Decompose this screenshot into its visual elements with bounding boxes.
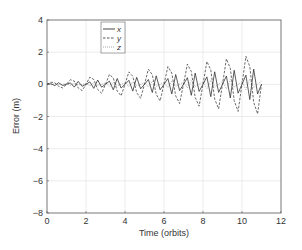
data-series (47, 56, 262, 114)
x-tick-label: 2 (83, 216, 88, 226)
y-tick-label: 4 (38, 15, 43, 25)
legend-label-z: z (116, 43, 121, 52)
x-tick-label: 12 (276, 216, 286, 226)
x-tick-label: 0 (44, 216, 49, 226)
y-tick-label: −6 (33, 176, 43, 186)
x-tick-label: 4 (122, 216, 127, 226)
error-vs-time-chart: 024681012−8−6−4−2024 x y z Time (orbits)… (0, 0, 302, 250)
y-tick-label: −2 (33, 112, 43, 122)
x-tick-label: 8 (200, 216, 205, 226)
x-tick-label: 10 (237, 216, 247, 226)
y-tick-label: −8 (33, 208, 43, 218)
legend: x y z (101, 22, 125, 53)
y-tick-label: 0 (38, 79, 43, 89)
x-tick-label: 6 (161, 216, 166, 226)
y-tick-label: −4 (33, 144, 43, 154)
grid-lines (47, 20, 281, 213)
axis-ticks: 024681012−8−6−4−2024 (33, 15, 286, 226)
x-axis-label: Time (orbits) (139, 228, 189, 238)
legend-box (101, 22, 125, 53)
y-tick-label: 2 (38, 47, 43, 57)
y-axis-label: Error (m) (11, 98, 21, 134)
